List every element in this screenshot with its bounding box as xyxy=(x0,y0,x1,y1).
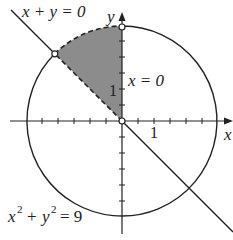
label-x-equals-zero: x = 0 xyxy=(127,71,165,90)
svg-text:x: x xyxy=(7,207,16,226)
y-axis-arrow-icon xyxy=(119,12,126,21)
point-circle-top xyxy=(119,24,125,30)
svg-text:= 9: = 9 xyxy=(60,207,82,226)
label-y-axis: y xyxy=(105,7,115,26)
svg-text:2: 2 xyxy=(17,203,23,215)
x-axis-arrow-icon xyxy=(224,118,233,125)
label-x-axis: x xyxy=(223,125,232,144)
shaded-region xyxy=(55,26,122,121)
label-line-equation: x + y = 0 xyxy=(21,2,86,21)
svg-text:2: 2 xyxy=(51,203,57,215)
point-intersection xyxy=(52,51,58,57)
label-tick-x-1: 1 xyxy=(150,124,158,141)
svg-text:+: + xyxy=(27,207,37,226)
label-tick-y-1: 1 xyxy=(109,82,117,99)
svg-text:y: y xyxy=(40,207,50,226)
region-diagram: x + y = 0 y x = 0 1 1 x x 2 + y 2 = 9 xyxy=(0,0,233,240)
line-x-plus-y-zero-lower xyxy=(122,121,233,232)
label-circle-equation: x 2 + y 2 = 9 xyxy=(7,203,82,226)
point-origin xyxy=(119,118,125,124)
